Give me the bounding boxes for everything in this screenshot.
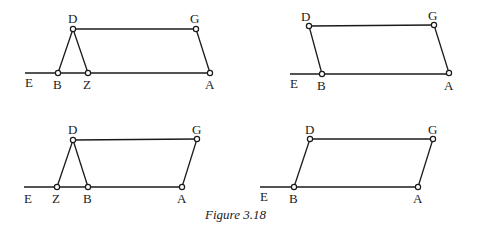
point-D: [70, 137, 75, 142]
segment-GA: [196, 29, 210, 73]
segment-GA: [182, 139, 197, 187]
point-D: [306, 23, 311, 28]
point-B: [55, 70, 60, 75]
point-Z: [54, 184, 59, 189]
label-B: B: [317, 78, 326, 93]
label-G: G: [192, 122, 201, 137]
label-E: E: [260, 189, 268, 204]
label-B: B: [289, 191, 298, 206]
point-D: [307, 136, 312, 141]
geometry-figure: DGBZAEDGBAEDGZBAEDGBAE Figure 3.18: [0, 0, 479, 234]
label-D: D: [68, 122, 77, 137]
segment-DG: [73, 139, 197, 140]
segment-DB: [294, 139, 310, 187]
segment-DZ: [73, 29, 88, 73]
segment-DB: [73, 140, 88, 187]
label-A: A: [205, 77, 215, 92]
label-G: G: [428, 8, 437, 23]
label-A: A: [413, 191, 423, 206]
point-Z: [85, 70, 90, 75]
point-A: [207, 70, 212, 75]
label-E: E: [24, 191, 32, 206]
point-D: [70, 26, 75, 31]
label-G: G: [190, 11, 199, 26]
panel-top-left: DGBZAE: [25, 11, 215, 92]
label-D: D: [68, 11, 77, 26]
figure-caption: Figure 3.18: [204, 207, 266, 222]
point-G: [194, 136, 199, 141]
label-A: A: [444, 78, 454, 93]
point-A: [415, 184, 420, 189]
label-E: E: [25, 75, 33, 90]
label-B: B: [83, 191, 92, 206]
label-B: B: [53, 77, 62, 92]
point-G: [431, 22, 436, 27]
label-D: D: [305, 122, 314, 137]
segment-GA: [434, 25, 449, 73]
label-A: A: [177, 191, 187, 206]
label-Z: Z: [83, 77, 91, 92]
point-G: [430, 136, 435, 141]
panel-bottom-left: DGZBAE: [24, 122, 201, 206]
segment-DB: [309, 26, 322, 74]
segment-GA: [418, 139, 433, 187]
label-D: D: [301, 9, 310, 24]
point-B: [85, 184, 90, 189]
label-G: G: [428, 122, 437, 137]
point-B: [291, 184, 296, 189]
point-A: [179, 184, 184, 189]
segment-DZ: [57, 140, 73, 187]
segment-DB: [58, 29, 73, 73]
label-Z: Z: [52, 191, 60, 206]
panel-top-right: DGBAE: [290, 8, 454, 93]
segment-DG: [309, 25, 434, 26]
panel-bottom-right: DGBAE: [260, 122, 437, 206]
point-B: [319, 71, 324, 76]
point-G: [193, 26, 198, 31]
point-A: [446, 70, 451, 75]
label-E: E: [290, 76, 298, 91]
